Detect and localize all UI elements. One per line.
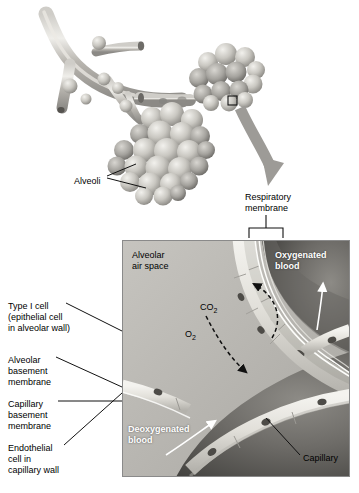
label-respiratory-membrane-line2: membrane bbox=[245, 203, 288, 214]
label-oxygenated-blood-line1: Oxygenated bbox=[275, 250, 327, 261]
alveolar-sac-lower bbox=[108, 102, 216, 206]
magnification-arrow bbox=[240, 108, 284, 186]
label-alveolar-basement-line2: basement bbox=[8, 366, 48, 377]
leader-type-i-cell bbox=[66, 303, 122, 331]
label-type-i-cell-line2: (epithelial cell bbox=[8, 312, 63, 323]
co2-text: CO bbox=[200, 302, 214, 312]
label-deoxygenated-blood-line1: Deoxygenated bbox=[128, 424, 190, 435]
label-capillary-basement-line2: basement bbox=[8, 410, 48, 421]
label-alveolar-air-space-line2: air space bbox=[132, 261, 169, 272]
label-type-i-cell-line3: in alveolar wall) bbox=[8, 323, 70, 334]
label-type-i-cell-line1: Type I cell bbox=[8, 301, 49, 312]
label-deoxygenated-blood-line2: blood bbox=[128, 435, 153, 446]
respiratory-membrane-bracket bbox=[249, 215, 283, 238]
leader-alveolar-basement bbox=[56, 357, 122, 387]
co2-subscript: 2 bbox=[214, 306, 218, 313]
label-endothelial-cell-line2: cell in bbox=[8, 454, 31, 465]
diagram-artwork bbox=[0, 0, 359, 493]
label-capillary-basement-line3: membrane bbox=[8, 421, 51, 432]
label-alveolar-basement-line3: membrane bbox=[8, 377, 51, 388]
label-endothelial-cell-line3: capillary wall bbox=[8, 465, 59, 476]
label-respiratory-membrane-line1: Respiratory bbox=[245, 192, 291, 203]
label-oxygenated-blood-line2: blood bbox=[275, 261, 300, 272]
label-o2: O2 bbox=[175, 318, 196, 353]
detail-panel-art bbox=[122, 238, 359, 477]
label-capillary-basement-line1: Capillary bbox=[8, 399, 43, 410]
figure-canvas: Alveoli Respiratory membrane Alveolar ai… bbox=[0, 0, 359, 493]
label-capillary: Capillary bbox=[303, 453, 338, 464]
o2-subscript: 2 bbox=[192, 333, 196, 340]
label-alveoli: Alveoli bbox=[74, 176, 101, 187]
label-endothelial-cell-line1: Endothelial bbox=[8, 443, 53, 454]
alveolar-sac-upper bbox=[189, 43, 265, 112]
label-alveolar-basement-line1: Alveolar bbox=[8, 355, 41, 366]
o2-text: O bbox=[185, 329, 192, 339]
label-alveolar-air-space-line1: Alveolar bbox=[132, 250, 165, 261]
